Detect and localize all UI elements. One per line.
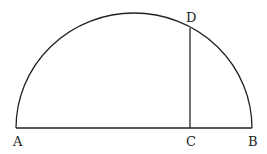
label-c: C (186, 134, 196, 149)
label-b: B (248, 134, 258, 149)
label-d: D (186, 10, 196, 25)
label-a: A (12, 134, 23, 149)
semicircle-diagram: A C B D (0, 0, 267, 154)
semicircle-arc (16, 13, 252, 128)
